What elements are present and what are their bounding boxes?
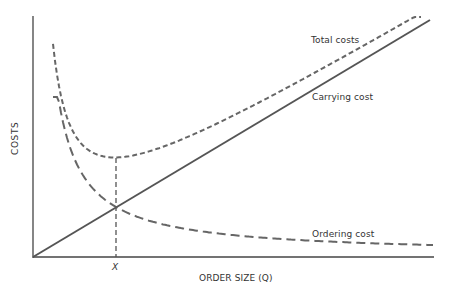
x-optimal-tick-label: X — [112, 262, 118, 272]
ordering-cost-curve — [53, 97, 433, 245]
carrying-cost-line — [33, 20, 430, 257]
total-cost-curve — [53, 17, 421, 158]
carrying-cost-label: Carrying cost — [312, 92, 373, 102]
y-axis-label: COSTS — [10, 122, 20, 155]
total-costs-label: Total costs — [311, 35, 359, 45]
ordering-cost-label: Ordering cost — [312, 229, 374, 239]
x-axis-label: ORDER SIZE (Q) — [199, 273, 273, 283]
eoq-chart — [0, 0, 449, 302]
